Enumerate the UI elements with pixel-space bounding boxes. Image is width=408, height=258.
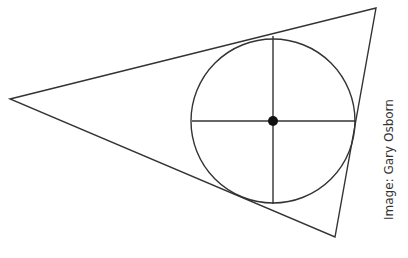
incircle-diagram bbox=[0, 0, 408, 258]
incenter-dot bbox=[268, 116, 278, 126]
triangle bbox=[10, 8, 376, 237]
image-credit-text: Image: Gary Osborn bbox=[382, 99, 396, 220]
